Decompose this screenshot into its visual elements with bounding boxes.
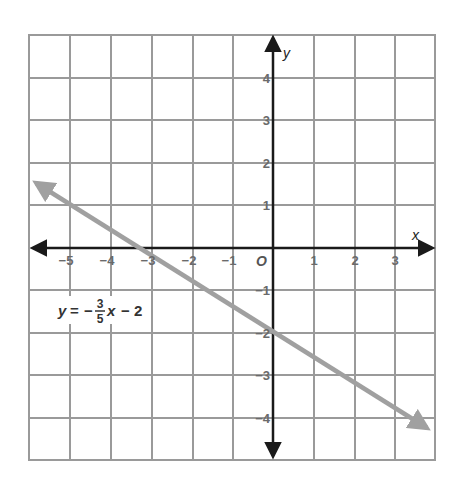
y-tick: −4 — [255, 411, 271, 426]
x-tick: −2 — [182, 253, 197, 268]
x-tick: 3 — [391, 253, 398, 268]
eq-equals: = — [70, 302, 79, 319]
x-tick-labels: −5 −4 −3 −2 −1 1 2 3 — [59, 253, 399, 268]
x-tick: 1 — [310, 253, 317, 268]
equation-label: y = − 3 5 x − 2 — [56, 296, 150, 326]
x-tick: −4 — [100, 253, 116, 268]
coordinate-plane: x y O −5 −4 −3 −2 −1 1 2 3 4 3 2 1 −1 −2… — [0, 0, 463, 487]
x-tick: 2 — [351, 253, 358, 268]
x-tick: −5 — [59, 253, 74, 268]
eq-y: y — [57, 302, 67, 319]
eq-denominator: 5 — [97, 312, 104, 326]
y-tick: −2 — [255, 326, 270, 341]
y-axis-label: y — [282, 45, 291, 61]
y-tick: 3 — [263, 113, 270, 128]
y-tick: 2 — [263, 156, 270, 171]
eq-numerator: 3 — [97, 297, 104, 311]
y-tick: 4 — [263, 71, 271, 86]
x-tick: −3 — [141, 253, 156, 268]
eq-minus: − — [84, 302, 93, 319]
y-tick: −1 — [255, 283, 270, 298]
x-tick: −1 — [222, 253, 237, 268]
y-tick: 1 — [263, 198, 270, 213]
y-tick: −3 — [255, 368, 270, 383]
eq-x: x — [106, 302, 116, 319]
origin-label: O — [256, 253, 267, 269]
eq-tail: − 2 — [121, 302, 142, 319]
x-axis-label: x — [411, 227, 420, 243]
